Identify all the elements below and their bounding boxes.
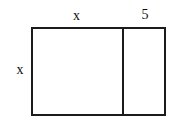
vertical-divider-line — [122, 27, 124, 116]
top-left-dimension-label: x — [31, 9, 122, 23]
geometry-figure-canvas: x 5 x — [0, 0, 178, 127]
top-right-dimension-label: 5 — [124, 8, 166, 22]
left-side-dimension-label: x — [12, 63, 28, 77]
outer-rectangle-shape — [31, 27, 166, 116]
